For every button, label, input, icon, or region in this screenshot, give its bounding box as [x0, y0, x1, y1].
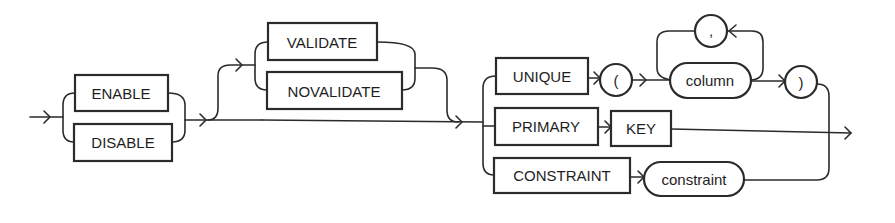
exit-path: [671, 127, 851, 139]
primary-keyword: PRIMARY: [512, 118, 580, 135]
close-paren: ): [799, 74, 804, 91]
unique-keyword: UNIQUE: [513, 68, 571, 85]
novalidate-keyword: NOVALIDATE: [288, 83, 381, 100]
comma: ,: [709, 22, 713, 39]
syntax-diagram: ENABLE DISABLE VALIDATE NOVALIDATE UNIQU…: [0, 0, 895, 223]
validate-keyword: VALIDATE: [287, 34, 357, 51]
enable-keyword: ENABLE: [91, 85, 150, 102]
disable-keyword: DISABLE: [91, 134, 154, 151]
constraint-keyword: CONSTRAINT: [513, 167, 611, 184]
column-variable: column: [686, 72, 734, 89]
entry-path: [30, 111, 63, 123]
open-paren: (: [614, 72, 619, 89]
constraint-variable: constraint: [661, 171, 727, 188]
key-keyword: KEY: [626, 120, 656, 137]
